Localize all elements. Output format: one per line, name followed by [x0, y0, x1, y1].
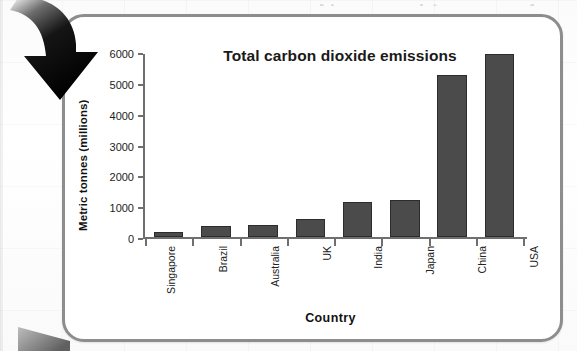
x-axis-tick	[476, 239, 523, 246]
bar-uk[interactable]	[296, 219, 325, 237]
bar-slot	[429, 54, 476, 237]
x-axis-ticks	[145, 239, 523, 246]
x-axis-category-slot: UK	[301, 246, 353, 308]
y-axis-tick: 1000	[110, 202, 143, 214]
y-axis-tick: 2000	[110, 171, 143, 183]
y-axis-tick-label: 6000	[110, 48, 134, 60]
bar-singapore[interactable]	[154, 232, 183, 237]
bar-china[interactable]	[437, 75, 466, 237]
y-axis-label: Metric tonnes (millions)	[73, 65, 93, 265]
x-axis-category-slot: India	[353, 246, 405, 308]
x-axis-category-label-uk: UK	[321, 246, 333, 261]
chart-panel: Total carbon dioxide emissions Metric to…	[62, 14, 563, 342]
bar-brazil[interactable]	[201, 226, 230, 237]
bar-slot	[334, 54, 381, 237]
x-axis-tick	[192, 239, 239, 246]
x-axis-category-label-singapore: Singapore	[165, 246, 177, 294]
bar-australia[interactable]	[248, 225, 277, 237]
y-axis-tick-mark	[138, 238, 143, 240]
y-axis-tick-label: 5000	[110, 79, 134, 91]
plot-area: 0100020003000400050006000	[143, 54, 523, 239]
y-axis-tick-label: 0	[128, 233, 134, 245]
bar-slot	[192, 54, 239, 237]
x-axis-category-label-brazil: Brazil	[217, 246, 229, 272]
bar-japan[interactable]	[390, 200, 419, 237]
x-axis-category-slot: Australia	[249, 246, 301, 308]
x-axis-category-slot: Singapore	[145, 246, 197, 308]
x-axis-label: Country	[111, 311, 550, 325]
x-axis-category-labels: SingaporeBrazilAustraliaUKIndiaJapanChin…	[145, 246, 560, 308]
bar-slot	[240, 54, 287, 237]
y-axis-tick-mark	[138, 84, 143, 86]
x-axis-category-slot: Brazil	[197, 246, 249, 308]
y-axis-tick-mark	[138, 146, 143, 148]
y-axis-tick-label: 1000	[110, 202, 134, 214]
y-axis-tick: 4000	[110, 110, 143, 122]
y-axis-tick-label: 3000	[110, 141, 134, 153]
x-axis-category-slot: China	[456, 246, 508, 308]
x-axis-tick	[381, 239, 428, 246]
y-axis-tick-mark	[138, 176, 143, 178]
x-axis-category-slot: Japan	[404, 246, 456, 308]
x-axis-category-label-japan: Japan	[424, 246, 436, 275]
bar-slot	[381, 54, 428, 237]
x-axis-category-label-china: China	[476, 246, 488, 273]
bar-series	[145, 54, 523, 237]
y-axis-tick-mark	[138, 207, 143, 209]
y-axis-tick: 3000	[110, 141, 143, 153]
x-axis-tick	[287, 239, 334, 246]
x-axis-category-label-usa: USA	[528, 246, 540, 268]
x-axis-category-slot: USA	[508, 246, 560, 308]
y-axis-tick: 0	[128, 233, 143, 245]
bar-slot	[287, 54, 334, 237]
y-axis-tick: 5000	[110, 79, 143, 91]
y-axis-tick-label: 2000	[110, 171, 134, 183]
x-axis-category-label-australia: Australia	[269, 246, 281, 287]
bar-slot	[476, 54, 523, 237]
y-axis-tick: 6000	[110, 48, 143, 60]
bar-usa[interactable]	[485, 54, 514, 237]
y-axis-tick-label: 4000	[110, 110, 134, 122]
clipped-text-strip	[300, 0, 570, 6]
corner-wedge-shape	[18, 325, 80, 351]
y-axis-tick-mark	[138, 53, 143, 55]
bar-india[interactable]	[343, 202, 372, 237]
x-axis-category-label-india: India	[372, 246, 384, 269]
bar-slot	[145, 54, 192, 237]
y-axis-tick-mark	[138, 115, 143, 117]
